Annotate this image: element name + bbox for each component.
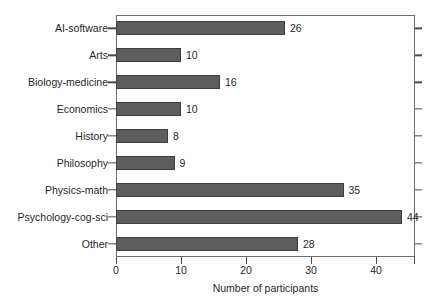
bar (116, 237, 298, 251)
x-tick-label: 10 (175, 265, 187, 276)
x-tick-mark (376, 257, 377, 264)
x-tick-label: 20 (240, 265, 252, 276)
bar-chart-figure: AI-softwareArtsBiology-medicineEconomics… (0, 0, 440, 304)
bar-value-label: 9 (180, 158, 186, 169)
bar (116, 183, 344, 197)
bar-row: 16 (116, 75, 415, 89)
x-tick-mark (311, 257, 312, 264)
bar-row: 28 (116, 237, 415, 251)
bar (116, 48, 181, 62)
y-axis-label: Biology-medicine (28, 77, 108, 88)
bar-value-label: 26 (290, 23, 302, 34)
y-tick-mark-right (415, 108, 422, 109)
bar (116, 75, 220, 89)
x-tick-label: 40 (370, 265, 382, 276)
y-axis-label: Philosophy (57, 158, 108, 169)
y-tick-mark-right (415, 55, 422, 56)
y-tick-mark-right (415, 162, 422, 163)
x-tick-mark-end (414, 257, 415, 264)
bar (116, 129, 168, 143)
bar-row: 8 (116, 129, 415, 143)
y-tick-mark (108, 108, 116, 109)
x-axis-title: Number of participants (116, 283, 415, 294)
y-tick-mark-right (415, 28, 422, 29)
bar (116, 210, 402, 224)
y-tick-mark-right (415, 135, 422, 136)
y-tick-mark (108, 135, 116, 136)
y-tick-mark (108, 189, 116, 190)
y-axis-label: AI-software (55, 23, 108, 34)
bars-layer: 2610161089354428 (116, 15, 415, 257)
bar-row: 9 (116, 156, 415, 170)
y-tick-mark-right (415, 189, 422, 190)
x-tick-mark (116, 257, 117, 264)
y-axis-category-labels: AI-softwareArtsBiology-medicineEconomics… (0, 15, 108, 257)
bar-value-label: 16 (225, 77, 237, 88)
y-axis-label: Psychology-cog-sci (18, 211, 108, 222)
y-axis-label: Other (82, 238, 108, 249)
bar-value-label: 8 (173, 131, 179, 142)
bar-value-label: 10 (186, 104, 198, 115)
y-tick-mark (108, 28, 116, 29)
x-tick-label: 30 (305, 265, 317, 276)
bar (116, 156, 175, 170)
y-tick-mark (108, 55, 116, 56)
bar-value-label: 10 (186, 50, 198, 61)
y-tick-mark (108, 82, 116, 83)
y-tick-mark (108, 162, 116, 163)
bar (116, 21, 285, 35)
x-axis-tick-labels: 010203040 (116, 265, 415, 279)
bar-value-label: 35 (349, 185, 361, 196)
bar-value-label: 44 (407, 211, 419, 222)
y-tick-mark (108, 243, 116, 244)
x-tick-label: 0 (113, 265, 119, 276)
bar-row: 44 (116, 210, 415, 224)
x-tick-mark (181, 257, 182, 264)
y-tick-mark (108, 216, 116, 217)
y-axis-label: Arts (89, 50, 108, 61)
y-axis-ticks-left (108, 15, 116, 257)
y-axis-label: Economics (57, 104, 108, 115)
y-axis-label: History (75, 131, 108, 142)
y-tick-mark-right (415, 82, 422, 83)
bar-row: 26 (116, 21, 415, 35)
bar-row: 10 (116, 48, 415, 62)
y-axis-label: Physics-math (45, 185, 108, 196)
y-tick-mark-right (415, 243, 422, 244)
bar-row: 10 (116, 102, 415, 116)
bar (116, 102, 181, 116)
x-tick-mark (246, 257, 247, 264)
bar-value-label: 28 (303, 238, 315, 249)
x-axis-ticks (116, 257, 415, 264)
bar-row: 35 (116, 183, 415, 197)
